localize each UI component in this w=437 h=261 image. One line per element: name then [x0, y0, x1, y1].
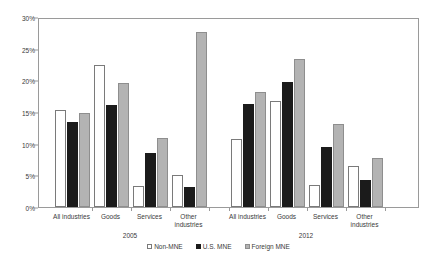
bar-group — [307, 19, 346, 207]
bar-group — [53, 19, 92, 207]
bar — [348, 166, 359, 207]
bar — [231, 139, 242, 207]
x-tick-mark — [346, 207, 347, 211]
x-tick-mark — [92, 207, 93, 211]
bar — [255, 92, 266, 207]
bar — [333, 124, 344, 207]
black-square-icon — [196, 244, 201, 249]
bar — [118, 83, 129, 207]
bar — [55, 110, 66, 207]
bar — [360, 180, 371, 207]
x-category-label: Other industries — [159, 213, 219, 229]
bar — [172, 175, 183, 207]
bar-group — [131, 19, 170, 207]
x-tick-mark — [131, 207, 132, 211]
legend-item: Non-MNE — [147, 243, 183, 250]
legend-label: Non-MNE — [154, 243, 183, 250]
bar-group — [268, 19, 307, 207]
bar-group — [229, 19, 268, 207]
bar — [196, 32, 207, 207]
bar — [321, 147, 332, 207]
bar — [270, 101, 281, 207]
bar — [145, 153, 156, 207]
bar — [294, 59, 305, 207]
bar — [94, 65, 105, 207]
x-tick-mark — [268, 207, 269, 211]
plot-area — [39, 19, 418, 207]
x-tick-mark — [209, 207, 210, 211]
plot-frame — [38, 18, 419, 208]
x-period-label: 2012 — [299, 232, 313, 239]
bar — [243, 104, 254, 207]
x-tick-mark — [229, 207, 230, 211]
legend-label: Foreign MNE — [252, 243, 290, 250]
bar — [133, 186, 144, 207]
bar-chart: 30%25%20%15%10%5%0% All industriesGoodsS… — [0, 0, 437, 261]
bar — [372, 158, 383, 207]
bar — [282, 82, 293, 207]
bar — [67, 122, 78, 208]
legend-label: U.S. MNE — [203, 243, 232, 250]
x-category-label: Other industries — [335, 213, 395, 229]
bar — [157, 138, 168, 207]
bar — [184, 187, 195, 207]
legend-item: U.S. MNE — [196, 243, 232, 250]
x-period-label: 2005 — [123, 232, 137, 239]
y-axis: 30%25%20%15%10%5%0% — [0, 0, 35, 261]
bar — [309, 185, 320, 207]
x-tick-mark — [385, 207, 386, 211]
bar-group — [92, 19, 131, 207]
bar — [106, 105, 117, 207]
legend-item: Foreign MNE — [245, 243, 290, 250]
bar-group — [346, 19, 385, 207]
chart-legend: Non-MNEU.S. MNEForeign MNE — [0, 243, 437, 250]
gray-square-icon — [245, 244, 250, 249]
x-tick-mark — [307, 207, 308, 211]
x-tick-mark — [170, 207, 171, 211]
white-square-icon — [147, 244, 152, 249]
bar-group — [170, 19, 209, 207]
bar — [79, 113, 90, 207]
